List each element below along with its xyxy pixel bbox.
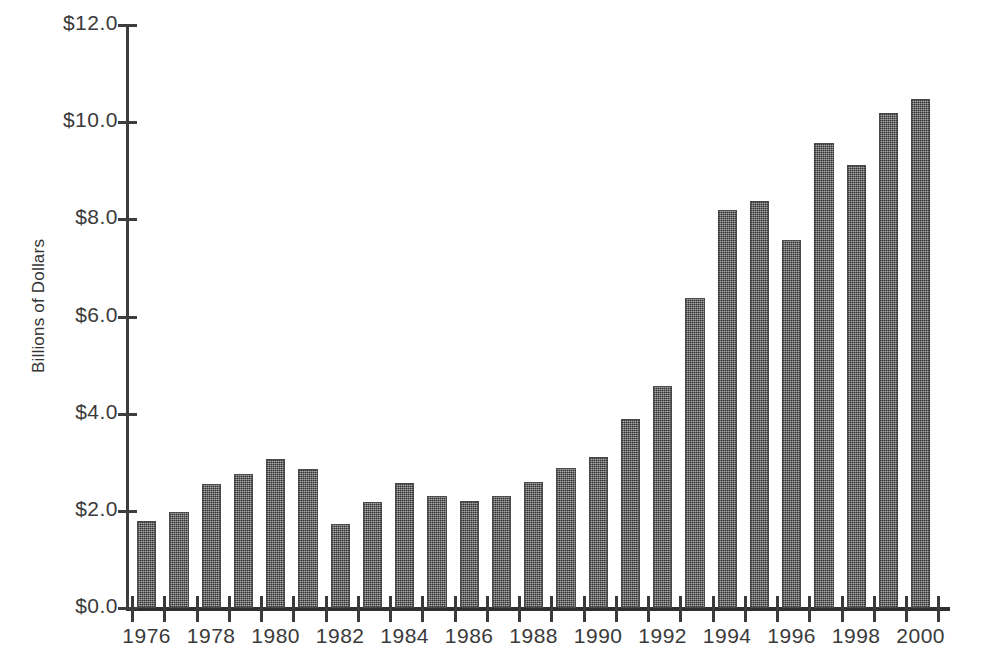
bar-1995 bbox=[750, 201, 769, 608]
y-axis-tick-label: $8.0 bbox=[32, 205, 118, 229]
bar-1993 bbox=[685, 298, 704, 608]
y-axis-tick-label: $4.0 bbox=[32, 400, 118, 424]
bar-1978 bbox=[202, 484, 221, 608]
bar-1994 bbox=[718, 210, 737, 608]
bar-1976 bbox=[137, 521, 156, 608]
bar-chart: Billions of Dollars $12.0$10.0$8.0$6.0$4… bbox=[0, 0, 989, 665]
bar-1998 bbox=[847, 165, 866, 608]
x-axis-tick-label: 2000 bbox=[881, 624, 961, 648]
y-axis-tick-label: $10.0 bbox=[32, 108, 118, 132]
y-axis-tick-label: $12.0 bbox=[32, 11, 118, 35]
bar-1980 bbox=[266, 459, 285, 608]
bar-1999 bbox=[879, 113, 898, 608]
bar-1977 bbox=[169, 512, 188, 608]
bar-1982 bbox=[331, 524, 350, 608]
bar-1996 bbox=[782, 240, 801, 608]
y-axis-tick-label: $0.0 bbox=[32, 594, 118, 618]
bar-1988 bbox=[524, 482, 543, 608]
bar-1992 bbox=[653, 386, 672, 608]
bar-1981 bbox=[298, 469, 317, 608]
bar-1990 bbox=[589, 457, 608, 608]
y-axis-tick-label: $2.0 bbox=[32, 497, 118, 521]
bar-1986 bbox=[460, 501, 479, 608]
y-axis-tick-labels: $12.0$10.0$8.0$6.0$4.0$2.0$0.0 bbox=[24, 0, 118, 665]
bar-1989 bbox=[556, 468, 575, 608]
bar-1997 bbox=[814, 143, 833, 608]
bar-1979 bbox=[234, 474, 253, 608]
bar-2000 bbox=[911, 99, 930, 608]
plot-area bbox=[126, 25, 950, 608]
bar-1985 bbox=[427, 496, 446, 608]
bar-1987 bbox=[492, 496, 511, 608]
y-axis-tick-label: $6.0 bbox=[32, 303, 118, 327]
bar-1991 bbox=[621, 419, 640, 608]
bar-1984 bbox=[395, 483, 414, 608]
bar-1983 bbox=[363, 502, 382, 608]
